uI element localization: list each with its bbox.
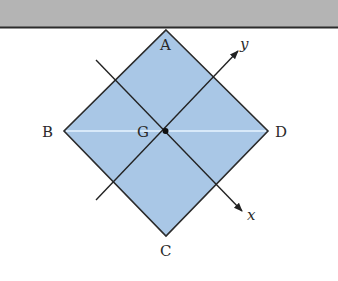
x-axis-label: x xyxy=(247,206,256,224)
ceiling-support xyxy=(0,0,338,27)
centroid-point xyxy=(163,128,169,134)
y-axis-label: y xyxy=(239,35,249,53)
vertex-label-a: A xyxy=(159,36,171,54)
diagram-canvas: A B C D G x y xyxy=(0,0,338,281)
vertex-label-d: D xyxy=(275,123,287,141)
vertex-label-b: B xyxy=(42,123,53,141)
vertex-label-c: C xyxy=(160,242,171,260)
centroid-label-g: G xyxy=(137,123,149,141)
